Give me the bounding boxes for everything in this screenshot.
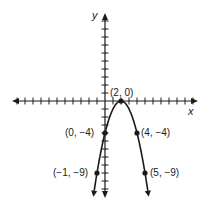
point-label-0-neg4: (0, −4) bbox=[65, 128, 94, 138]
curve-left-arrow-icon bbox=[91, 190, 97, 196]
y-axis-label: y bbox=[92, 10, 98, 21]
data-point bbox=[134, 130, 139, 135]
point-label-vertex: (2, 0) bbox=[110, 88, 133, 98]
data-point bbox=[102, 130, 107, 135]
curve-right-arrow-icon bbox=[145, 190, 151, 196]
point-label-5-neg9: (5, −9) bbox=[150, 168, 179, 178]
y-axis-up-arrow-icon bbox=[102, 13, 108, 20]
x-axis-label: x bbox=[188, 106, 194, 117]
point-label-neg1-neg9: (−1, −9) bbox=[53, 168, 88, 178]
x-axis-left-arrow-icon bbox=[12, 98, 19, 104]
data-point bbox=[118, 98, 123, 103]
parabola-curve bbox=[94, 101, 148, 191]
data-point bbox=[142, 170, 147, 175]
data-point bbox=[94, 170, 99, 175]
plotted-points bbox=[94, 98, 147, 175]
point-label-4-neg4: (4, −4) bbox=[141, 128, 170, 138]
y-axis-down-arrow-icon bbox=[102, 191, 108, 198]
x-axis-right-arrow-icon bbox=[191, 98, 198, 104]
